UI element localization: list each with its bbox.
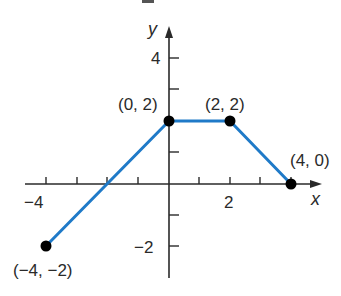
point-label-2-2: (2, 2) bbox=[205, 95, 245, 114]
tick-label-x-neg4: −4 bbox=[24, 193, 43, 212]
x-axis-arrow-icon bbox=[310, 180, 322, 188]
tick-label-y-neg2: −2 bbox=[134, 238, 153, 257]
point-label-4-0: (4, 0) bbox=[290, 151, 330, 170]
point-neg4-neg2 bbox=[41, 241, 52, 252]
point-label-neg4-neg2: (−4, −2) bbox=[13, 261, 73, 280]
point-2-2 bbox=[225, 116, 236, 127]
y-axis-arrow-icon bbox=[165, 26, 173, 38]
point-label-0-2: (0, 2) bbox=[118, 95, 158, 114]
tick-label-y-4: 4 bbox=[151, 49, 160, 68]
chart: y x −4 2 4 −2 (−4, −2) (0, 2) (2, 2) (4,… bbox=[0, 0, 341, 296]
tick-label-x-2: 2 bbox=[224, 193, 233, 212]
point-0-2 bbox=[164, 116, 175, 127]
y-axis-label: y bbox=[146, 19, 158, 39]
x-axis-label: x bbox=[310, 189, 321, 209]
y-ticks bbox=[169, 58, 179, 246]
point-4-0 bbox=[286, 179, 297, 190]
top-artifact bbox=[142, 0, 154, 3]
